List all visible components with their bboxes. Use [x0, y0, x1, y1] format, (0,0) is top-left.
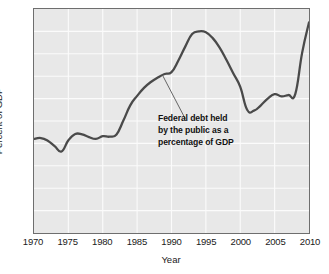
chart-figure: 05101520253035404550 Percent of GDP 1970…	[0, 0, 329, 274]
annotation-line: by the public as a	[158, 124, 234, 136]
x-tick-label: 2010	[290, 236, 329, 247]
annotation-line: Federal debt held	[158, 112, 234, 124]
x-axis-title: Year	[161, 254, 180, 265]
annotation-line: percentage of GDP	[158, 136, 234, 148]
y-axis-title: Percent of GDP	[0, 88, 4, 155]
series-annotation-label: Federal debt heldby the public as aperce…	[158, 112, 234, 149]
